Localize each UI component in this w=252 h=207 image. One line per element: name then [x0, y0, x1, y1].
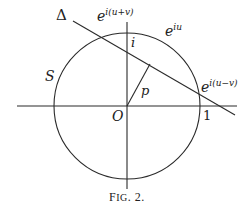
caption-suffix: . 2.	[128, 190, 145, 204]
label-e-iu: eiu	[165, 23, 182, 38]
label-one: 1	[203, 109, 211, 122]
label-e-i-u-plus-v: ei(u+v)	[97, 8, 134, 23]
label-delta: Δ	[56, 8, 67, 23]
exponent: i(u+v)	[105, 7, 133, 17]
label-O: O	[112, 109, 123, 123]
figure-caption: FIG. 2.	[109, 190, 145, 205]
caption-smallcaps: IG	[116, 192, 128, 203]
delta-line	[73, 21, 235, 115]
exponent: i(u−v)	[209, 78, 237, 88]
label-S: S	[45, 69, 55, 83]
label-p: p	[141, 84, 149, 97]
exponent: iu	[173, 22, 182, 32]
label-e-i-u-minus-v: ei(u−v)	[201, 79, 238, 94]
label-i: i	[131, 36, 135, 49]
unit-circle-diagram	[0, 0, 252, 207]
